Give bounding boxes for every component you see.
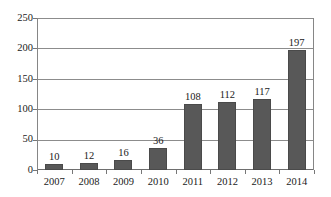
y-tick-label-100: 100 xyxy=(0,104,33,115)
bar-chart: 250 200 150 100 50 0 10 12 16 xyxy=(0,0,331,197)
bar-2007[interactable] xyxy=(45,164,63,170)
bar-value-2009: 16 xyxy=(118,147,129,158)
x-tickmark-7 xyxy=(279,170,280,174)
bars-layer: 10 12 16 36 108 112 117 197 xyxy=(37,18,314,170)
x-tickmark-2 xyxy=(106,170,107,174)
bar-2013[interactable] xyxy=(253,99,271,170)
bar-value-2013: 117 xyxy=(254,86,269,97)
bar-2011[interactable] xyxy=(184,104,202,170)
y-tick-label-50: 50 xyxy=(0,134,33,145)
y-tick-label-250: 250 xyxy=(0,13,33,24)
bar-value-2007: 10 xyxy=(49,151,60,162)
x-tickmark-6 xyxy=(245,170,246,174)
x-tick-label-2013: 2013 xyxy=(252,176,273,188)
bar-2008[interactable] xyxy=(80,163,98,170)
x-tick-label-2009: 2009 xyxy=(113,176,134,188)
bar-value-2012: 112 xyxy=(220,89,235,100)
bar-slot-2014: 197 xyxy=(279,18,314,170)
x-tickmark-4 xyxy=(176,170,177,174)
x-tick-label-2011: 2011 xyxy=(182,176,203,188)
bar-slot-2011: 108 xyxy=(176,18,211,170)
x-tick-label-2007: 2007 xyxy=(44,176,65,188)
bar-2012[interactable] xyxy=(218,102,236,170)
y-tick-label-200: 200 xyxy=(0,43,33,54)
x-tickmark-0 xyxy=(37,170,38,174)
bar-slot-2008: 12 xyxy=(72,18,107,170)
y-tick-label-0: 0 xyxy=(0,165,33,176)
bar-2009[interactable] xyxy=(114,160,132,170)
bar-value-2014: 197 xyxy=(289,37,305,48)
x-tickmark-3 xyxy=(141,170,142,174)
bar-value-2011: 108 xyxy=(185,91,201,102)
y-tick-label-150: 150 xyxy=(0,74,33,85)
bar-slot-2013: 117 xyxy=(245,18,280,170)
bar-value-2010: 36 xyxy=(153,135,164,146)
bar-slot-2009: 16 xyxy=(106,18,141,170)
bar-2010[interactable] xyxy=(149,148,167,170)
bar-value-2008: 12 xyxy=(84,150,95,161)
x-tick-label-2008: 2008 xyxy=(78,176,99,188)
x-tick-label-2014: 2014 xyxy=(286,176,307,188)
bar-slot-2010: 36 xyxy=(141,18,176,170)
bar-slot-2012: 112 xyxy=(210,18,245,170)
x-tick-label-2012: 2012 xyxy=(217,176,238,188)
bar-slot-2007: 10 xyxy=(37,18,72,170)
bar-2014[interactable] xyxy=(288,50,306,170)
x-tick-label-2010: 2010 xyxy=(148,176,169,188)
x-axis: 2007 2008 2009 2010 2011 2012 2013 2014 xyxy=(37,176,314,192)
y-axis: 250 200 150 100 50 0 xyxy=(0,0,33,197)
x-tickmark-8 xyxy=(314,170,315,174)
x-tickmark-1 xyxy=(72,170,73,174)
x-tickmark-5 xyxy=(210,170,211,174)
